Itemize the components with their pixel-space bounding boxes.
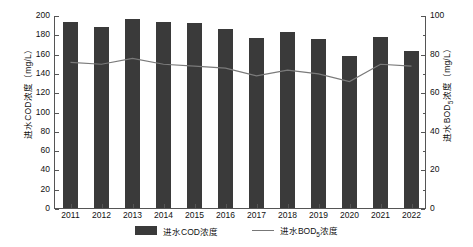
y-left-tickmark (55, 132, 59, 133)
y-right-minor-tickmark (423, 190, 426, 191)
y-left-tickmark (55, 55, 59, 56)
y-left-tick-label: 120 (36, 88, 50, 97)
y-left-tickmark (55, 93, 59, 94)
x-tickmark (257, 204, 258, 208)
y-axis-right-title-subscript: 5 (447, 100, 454, 104)
y-right-minor-tickmark (423, 113, 426, 114)
x-tickmark (102, 204, 103, 208)
x-tickmark (164, 204, 165, 208)
y-right-tickmark (421, 170, 425, 171)
legend-label-bod: 进水BOD5浓度 (280, 224, 338, 238)
x-axis-label-2014: 2014 (148, 211, 179, 220)
x-axis-label-2015: 2015 (179, 211, 210, 220)
x-axis-label-2022: 2022 (396, 211, 427, 220)
plot-area: 0204060801001201401601802000204060801002… (54, 16, 426, 209)
y-left-tickmark (55, 151, 59, 152)
x-axis-label-2017: 2017 (241, 211, 272, 220)
y-right-tickmark (421, 93, 425, 94)
y-left-tick-label: 200 (36, 11, 50, 20)
legend-label-bod-suffix: 浓度 (320, 226, 338, 236)
y-left-tick-label: 140 (36, 69, 50, 78)
y-left-tick-label: 80 (41, 127, 50, 136)
x-tickmark (226, 204, 227, 208)
y-left-tickmark (55, 35, 59, 36)
y-axis-left-title: 进水COD浓度（mg/L） (21, 17, 33, 167)
legend-label-bod-prefix: 进水BOD (280, 226, 316, 236)
y-left-tickmark (55, 190, 59, 191)
y-left-tickmark (55, 113, 59, 114)
y-right-tickmark (421, 16, 425, 17)
y-right-tickmark (421, 209, 425, 210)
y-left-tickmark (55, 16, 59, 17)
bod-line-path (71, 58, 412, 81)
y-right-tick-label: 20 (430, 165, 439, 174)
y-left-tick-label: 40 (41, 165, 50, 174)
y-axis-right-title-prefix: 进水BOD (442, 104, 452, 141)
x-axis-label-2020: 2020 (334, 211, 365, 220)
x-tickmark (133, 204, 134, 208)
x-axis-label-2011: 2011 (55, 211, 86, 220)
legend-item-cod[interactable]: 进水COD浓度 (135, 225, 218, 237)
y-right-tick-label: 60 (430, 88, 439, 97)
y-left-tickmark (55, 74, 59, 75)
y-right-tick-label: 40 (430, 127, 439, 136)
y-left-tick-label: 160 (36, 50, 50, 59)
x-axis-label-2018: 2018 (272, 211, 303, 220)
y-right-tick-label: 80 (430, 50, 439, 59)
x-axis-label-2016: 2016 (210, 211, 241, 220)
x-tickmark (412, 204, 413, 208)
y-axis-right-title: 进水BOD5浓度（mg/L） (440, 18, 454, 168)
y-left-tick-label: 20 (41, 185, 50, 194)
x-axis-label-2012: 2012 (86, 211, 117, 220)
y-axis-right-title-suffix: 浓度（mg/L） (442, 44, 452, 101)
x-axis-label-2021: 2021 (365, 211, 396, 220)
y-left-tick-label: 0 (45, 204, 50, 213)
y-right-minor-tickmark (423, 74, 426, 75)
x-axis-label-2019: 2019 (303, 211, 334, 220)
x-tickmark (381, 204, 382, 208)
legend-item-bod[interactable]: 进水BOD5浓度 (252, 224, 338, 238)
y-right-tick-label: 0 (430, 204, 435, 213)
legend-label-cod: 进水COD浓度 (163, 225, 218, 237)
legend-swatch-line-icon (252, 230, 274, 231)
x-tickmark (288, 204, 289, 208)
chart-legend: 进水COD浓度 进水BOD5浓度 (0, 224, 473, 238)
y-right-tickmark (421, 55, 425, 56)
line-series (55, 16, 427, 209)
y-right-minor-tickmark (423, 35, 426, 36)
y-left-tickmark (55, 209, 59, 210)
x-tickmark (319, 204, 320, 208)
y-left-tick-label: 100 (36, 108, 50, 117)
y-left-tickmark (55, 170, 59, 171)
y-right-tick-label: 100 (430, 11, 444, 20)
y-right-tickmark (421, 132, 425, 133)
x-tickmark (195, 204, 196, 208)
y-right-minor-tickmark (423, 151, 426, 152)
x-tickmark (71, 204, 72, 208)
x-axis-label-2013: 2013 (117, 211, 148, 220)
chart-container: 进水COD浓度（mg/L） 进水BOD5浓度（mg/L） 02040608010… (0, 0, 473, 247)
y-left-tick-label: 180 (36, 30, 50, 39)
legend-swatch-bar-icon (135, 226, 157, 235)
x-tickmark (350, 204, 351, 208)
y-left-tick-label: 60 (41, 146, 50, 155)
